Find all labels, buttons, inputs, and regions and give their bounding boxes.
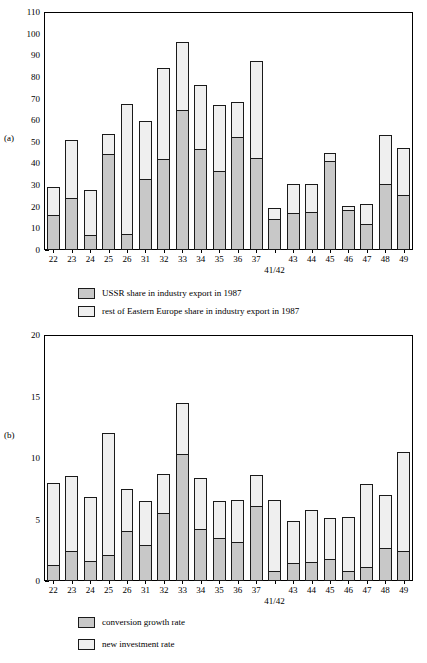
bar-segment-lower xyxy=(360,567,373,581)
bar-segment-lower xyxy=(102,154,115,250)
bar-column xyxy=(102,134,115,250)
x-axis-tick-mark xyxy=(330,581,331,584)
x-axis-title: 41/42 xyxy=(264,266,285,275)
bar-segment-lower xyxy=(47,565,60,581)
x-axis-tick-mark xyxy=(182,250,183,253)
bar-column xyxy=(139,121,152,250)
x-axis-tick-mark xyxy=(312,250,313,253)
bar-segment-lower xyxy=(268,219,281,250)
y-axis-tick-label: 110 xyxy=(16,8,40,17)
bar-segment-upper xyxy=(268,500,281,572)
x-axis-tick-label: 31 xyxy=(141,255,150,264)
bar-segment-upper xyxy=(194,478,207,531)
x-axis-tick-mark xyxy=(109,250,110,253)
bar-segment-lower xyxy=(379,548,392,581)
x-axis-tick-mark xyxy=(164,250,165,253)
x-axis-tick-label: 43 xyxy=(289,255,298,264)
bar-segment-upper xyxy=(176,42,189,111)
bar-segment-lower xyxy=(250,158,263,250)
bar-segment-lower xyxy=(397,551,410,581)
legend-item: conversion growth rate xyxy=(78,617,185,628)
bar-segment-lower xyxy=(231,137,244,250)
x-axis-tick-mark xyxy=(348,250,349,253)
chart-panel-b: (b) 05101520 222324252631323334353637434… xyxy=(0,325,427,663)
bar-segment-lower xyxy=(176,454,189,581)
bar-column xyxy=(342,517,355,581)
x-axis-tick-mark xyxy=(127,250,128,253)
x-axis-tick-mark xyxy=(219,581,220,584)
bar-column xyxy=(65,140,78,250)
y-axis-tick-label: 70 xyxy=(16,94,40,103)
x-axis-tick-label: 35 xyxy=(215,255,224,264)
chart-panel-a: (a) 0102030405060708090100110 2223242526… xyxy=(0,0,427,300)
y-axis-tick-label: 5 xyxy=(16,515,40,524)
bar-segment-lower xyxy=(287,213,300,250)
x-axis-tick-label: 33 xyxy=(178,255,187,264)
bar-segment-lower xyxy=(121,531,134,581)
y-axis-tick-label: 20 xyxy=(16,331,40,340)
bar-segment-lower xyxy=(47,215,60,250)
bar-column xyxy=(379,135,392,250)
x-axis-tick-label: 43 xyxy=(289,586,298,595)
x-axis-tick-mark xyxy=(201,581,202,584)
x-axis-tick-label: 34 xyxy=(196,255,205,264)
bar-segment-upper xyxy=(213,105,226,172)
bar-segment-lower xyxy=(65,551,78,581)
bar-segment-upper xyxy=(305,184,318,213)
bar-segment-upper xyxy=(157,68,170,160)
bar-column xyxy=(287,184,300,250)
y-axis-tick-label: 50 xyxy=(16,137,40,146)
x-axis-tick-mark xyxy=(293,250,294,253)
x-axis-tick-label: 36 xyxy=(233,586,242,595)
bar-column xyxy=(250,61,263,250)
x-axis-tick-label: 35 xyxy=(215,586,224,595)
bar-column xyxy=(360,204,373,250)
x-axis-tick-mark xyxy=(312,581,313,584)
x-axis-tick-mark xyxy=(90,581,91,584)
bar-segment-upper xyxy=(84,190,97,236)
x-axis-tick-mark xyxy=(238,581,239,584)
x-axis-tick-mark xyxy=(256,581,257,584)
x-axis-tick-label: 25 xyxy=(104,255,113,264)
x-axis-tick-label: 31 xyxy=(141,586,150,595)
bar-column xyxy=(287,521,300,581)
bar-segment-lower xyxy=(157,159,170,250)
legend-label: rest of Eastern Europe share in industry… xyxy=(102,307,299,316)
bar-segment-lower xyxy=(250,506,263,581)
x-axis-tick-mark xyxy=(256,250,257,253)
bar-segment-lower xyxy=(157,513,170,581)
bar-segment-upper xyxy=(305,510,318,563)
bar-segment-lower xyxy=(342,571,355,581)
bar-column xyxy=(213,105,226,250)
bar-segment-lower xyxy=(324,161,337,250)
bar-segment-upper xyxy=(65,476,78,552)
x-axis-tick-mark xyxy=(72,581,73,584)
bar-segment-upper xyxy=(379,495,392,550)
y-axis-tick-label: 40 xyxy=(16,159,40,168)
bar-segment-upper xyxy=(379,135,392,185)
x-axis-tick-label: 23 xyxy=(67,586,76,595)
x-axis-tick-mark xyxy=(72,250,73,253)
x-axis-tick-label: 26 xyxy=(123,255,132,264)
x-axis-tick-mark xyxy=(145,250,146,253)
bar-column xyxy=(342,206,355,250)
x-axis-tick-mark xyxy=(348,581,349,584)
x-axis-tick-label: 22 xyxy=(49,586,58,595)
x-axis-tick-mark xyxy=(127,581,128,584)
bar-segment-upper xyxy=(397,148,410,196)
y-axis-tick-label: 15 xyxy=(16,392,40,401)
x-axis-tick-mark xyxy=(367,581,368,584)
y-axis-tick-label: 0 xyxy=(16,246,40,255)
bar-segment-lower xyxy=(139,179,152,250)
bar-segment-upper xyxy=(324,518,337,560)
bar-segment-upper xyxy=(360,204,373,225)
bar-segment-upper xyxy=(65,140,78,199)
bar-segment-lower xyxy=(102,555,115,581)
bar-segment-lower xyxy=(213,538,226,581)
legend-swatch-lower xyxy=(78,617,95,628)
bar-segment-upper xyxy=(84,497,97,562)
y-axis-tick-label: 10 xyxy=(16,224,40,233)
bar-segment-lower xyxy=(194,529,207,581)
x-axis-tick-label: 49 xyxy=(399,586,408,595)
bar-column xyxy=(324,518,337,581)
